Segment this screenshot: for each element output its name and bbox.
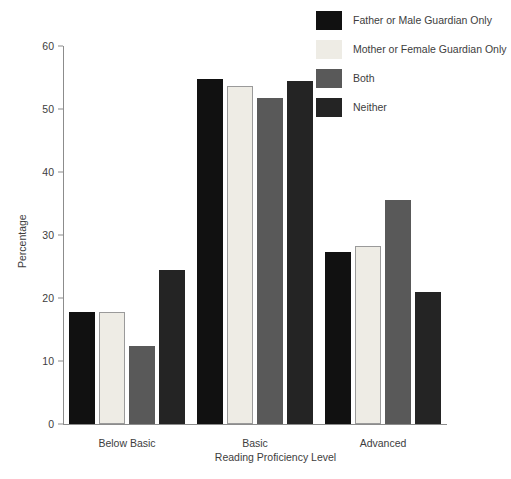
bar[interactable]: [129, 346, 155, 424]
bar-group-bars: [319, 46, 447, 424]
legend-item: Father or Male Guardian Only: [316, 8, 506, 32]
bar[interactable]: [287, 81, 313, 424]
plot-area: 0102030405060 Below BasicBasicAdvanced: [63, 46, 447, 424]
bar[interactable]: [227, 86, 253, 424]
bar-group: Basic: [191, 46, 319, 424]
bar[interactable]: [69, 312, 95, 424]
bar-group-bars: [63, 46, 191, 424]
bar-group: Below Basic: [63, 46, 191, 424]
y-axis-label: Percentage: [16, 214, 28, 268]
x-tick-label: Below Basic: [63, 424, 191, 449]
bar[interactable]: [99, 312, 125, 424]
bar[interactable]: [159, 270, 185, 424]
x-tick-label: Advanced: [319, 424, 447, 449]
bar[interactable]: [197, 79, 223, 424]
bar-group-bars: [191, 46, 319, 424]
x-axis-label-text: Reading Proficiency Level: [175, 451, 336, 463]
x-axis-label: Reading Proficiency Level: [0, 451, 511, 463]
bar[interactable]: [385, 200, 411, 424]
bar-group: Advanced: [319, 46, 447, 424]
bar-chart: Father or Male Guardian Only Mother or F…: [0, 0, 511, 479]
legend-label: Father or Male Guardian Only: [353, 14, 492, 26]
bar-groups: Below BasicBasicAdvanced: [63, 46, 447, 424]
legend-swatch-icon: [316, 11, 342, 30]
bar[interactable]: [257, 98, 283, 424]
x-tick-label: Basic: [191, 424, 319, 449]
bar[interactable]: [415, 292, 441, 424]
bar[interactable]: [325, 252, 351, 424]
bar[interactable]: [355, 246, 381, 424]
